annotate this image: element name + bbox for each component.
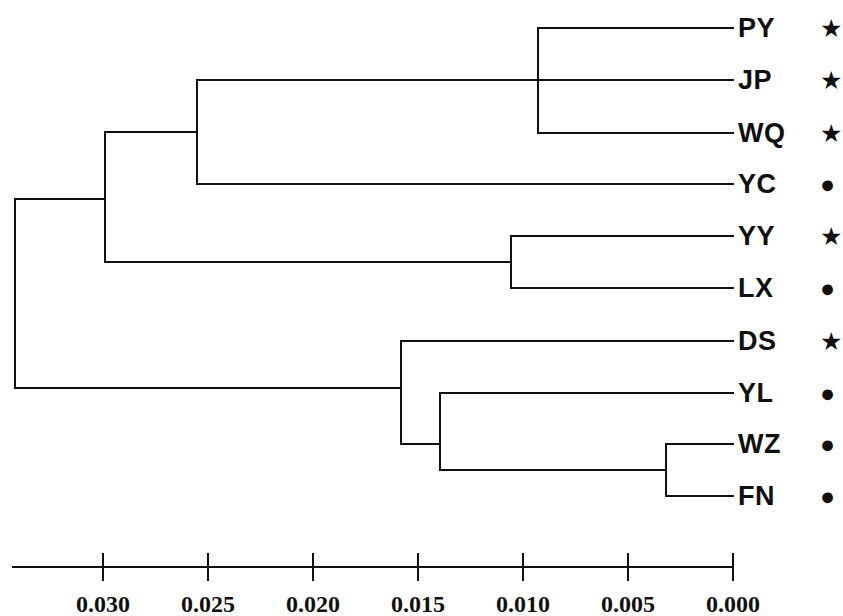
axis-tick-label-2: 0.020 bbox=[286, 592, 340, 616]
axis-tick-label-0: 0.030 bbox=[76, 592, 130, 616]
tip-label-yl: YL bbox=[738, 380, 774, 407]
tip-label-py: PY bbox=[738, 15, 775, 42]
axis-tick-label-6: 0.000 bbox=[706, 592, 760, 616]
tip-label-wz: WZ bbox=[738, 431, 781, 458]
axis-tick-label-5: 0.005 bbox=[601, 592, 655, 616]
tree-branch-group bbox=[15, 28, 733, 496]
circle-icon: ● bbox=[820, 484, 835, 509]
axis-tick-label-1: 0.025 bbox=[181, 592, 235, 616]
axis-tick-label-4: 0.010 bbox=[496, 592, 550, 616]
star-icon: ★ bbox=[820, 121, 842, 146]
star-icon: ★ bbox=[820, 16, 842, 41]
star-icon: ★ bbox=[820, 329, 842, 354]
tip-label-wq: WQ bbox=[738, 120, 786, 147]
tip-label-ds: DS bbox=[738, 328, 777, 355]
tip-label-jp: JP bbox=[738, 67, 772, 94]
star-icon: ★ bbox=[820, 224, 842, 249]
circle-icon: ● bbox=[820, 432, 835, 457]
circle-icon: ● bbox=[820, 381, 835, 406]
axis-tick-label-3: 0.015 bbox=[391, 592, 445, 616]
tip-label-yc: YC bbox=[738, 171, 777, 198]
tip-label-fn: FN bbox=[738, 483, 775, 510]
tip-label-yy: YY bbox=[738, 223, 775, 250]
tip-label-lx: LX bbox=[738, 275, 774, 302]
circle-icon: ● bbox=[820, 276, 835, 301]
distance-axis-group bbox=[13, 554, 733, 580]
circle-icon: ● bbox=[820, 172, 835, 197]
star-icon: ★ bbox=[820, 68, 842, 93]
